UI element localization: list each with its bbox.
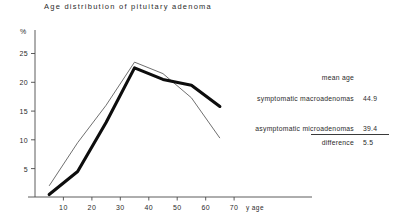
- legend-row-difference: difference 5.5: [189, 139, 389, 146]
- x-tick-label-50: 50: [173, 204, 182, 211]
- legend-header-row: mean age: [189, 74, 389, 81]
- legend-label-macroadenomas: symptomatic macroadenomas: [257, 95, 354, 102]
- legend-header-label: mean age: [322, 74, 354, 81]
- chart-figure: Age distribution of pituitary adenoma % …: [0, 0, 393, 224]
- y-tick-label-10: 10: [19, 137, 28, 144]
- x-tick-label-60: 60: [201, 204, 210, 211]
- legend: mean age symptomatic macroadenomas 44.9 …: [189, 74, 389, 146]
- y-axis-ticks: [31, 54, 35, 169]
- legend-row-macroadenomas: symptomatic macroadenomas 44.9: [189, 95, 389, 102]
- x-tick-label-30: 30: [116, 204, 125, 211]
- x-axis-ticks: [63, 197, 234, 201]
- y-tick-label-20: 20: [19, 79, 28, 86]
- legend-divider: [311, 134, 389, 135]
- y-tick-label-15: 15: [19, 108, 28, 115]
- x-axis-unit-label: y age: [246, 204, 264, 212]
- x-axis-tick-labels: 10 20 30 40 50 60 70 y age: [59, 204, 264, 212]
- legend-label-microadenomas: asymptomatic microadenomas: [255, 125, 354, 132]
- legend-value-microadenomas: 39.4: [354, 125, 389, 132]
- legend-value-difference: 5.5: [354, 139, 389, 146]
- y-axis-tick-labels: 25 20 15 10 5: [19, 50, 28, 172]
- legend-value-macroadenomas: 44.9: [354, 95, 389, 102]
- x-tick-label-10: 10: [59, 204, 68, 211]
- legend-label-difference: difference: [322, 139, 354, 146]
- x-tick-label-40: 40: [145, 204, 154, 211]
- legend-row-microadenomas: asymptomatic microadenomas 39.4: [189, 125, 389, 132]
- y-tick-label-5: 5: [24, 166, 28, 173]
- x-tick-label-20: 20: [88, 204, 97, 211]
- x-tick-label-70: 70: [230, 204, 239, 211]
- y-tick-label-25: 25: [19, 50, 28, 57]
